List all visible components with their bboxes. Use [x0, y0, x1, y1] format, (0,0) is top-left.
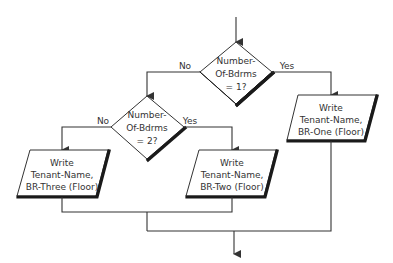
output-br-one-line-3: BR-One (Floor) [298, 127, 364, 137]
output-br-one: Write Tenant-Name, BR-One (Floor) [287, 95, 377, 141]
decision-1-no-connector [147, 72, 200, 96]
output-br-one-line-2: Tenant-Name, [299, 115, 363, 125]
output-br-three-line-2: Tenant-Name, [30, 170, 94, 180]
decision-2-line-1: Number- [128, 110, 167, 120]
output-br-two-line-1: Write [220, 158, 244, 168]
output-br-two: Write Tenant-Name, BR-Two (Floor) [186, 150, 277, 197]
output-br-two-line-3: BR-Two (Floor) [200, 182, 264, 192]
output-br-three-line-1: Write [50, 158, 74, 168]
decision-1: Number- Of-Bdrms = 1? [200, 42, 273, 105]
decision-2-yes-label: Yes [182, 116, 198, 126]
decision-1-yes-connector [272, 72, 331, 95]
output-br-one-line-1: Write [319, 103, 343, 113]
decision-2-no-connector [62, 127, 111, 150]
decision-1-line-2: Of-Bdrms [215, 69, 257, 79]
decision-1-no-label: No [179, 61, 192, 71]
flowchart-canvas: Number- Of-Bdrms = 1? No Yes Number- Of-… [0, 0, 393, 263]
decision-2-line-2: Of-Bdrms [126, 123, 168, 133]
decision-2: Number- Of-Bdrms = 2? [111, 96, 185, 160]
decision-2-no-label: No [97, 116, 110, 126]
decision-2-yes-connector [184, 127, 232, 150]
output-br-two-line-2: Tenant-Name, [200, 170, 264, 180]
decision-1-yes-label: Yes [279, 61, 295, 71]
decision-1-line-1: Number- [217, 56, 256, 66]
decision-1-line-3: = 1? [226, 82, 247, 92]
output-br-three-line-3: BR-Three (Floor) [26, 182, 99, 192]
output-br-three: Write Tenant-Name, BR-Three (Floor) [17, 150, 109, 197]
decision-2-line-3: = 2? [137, 136, 158, 146]
merge-inner-connector [62, 197, 232, 212]
